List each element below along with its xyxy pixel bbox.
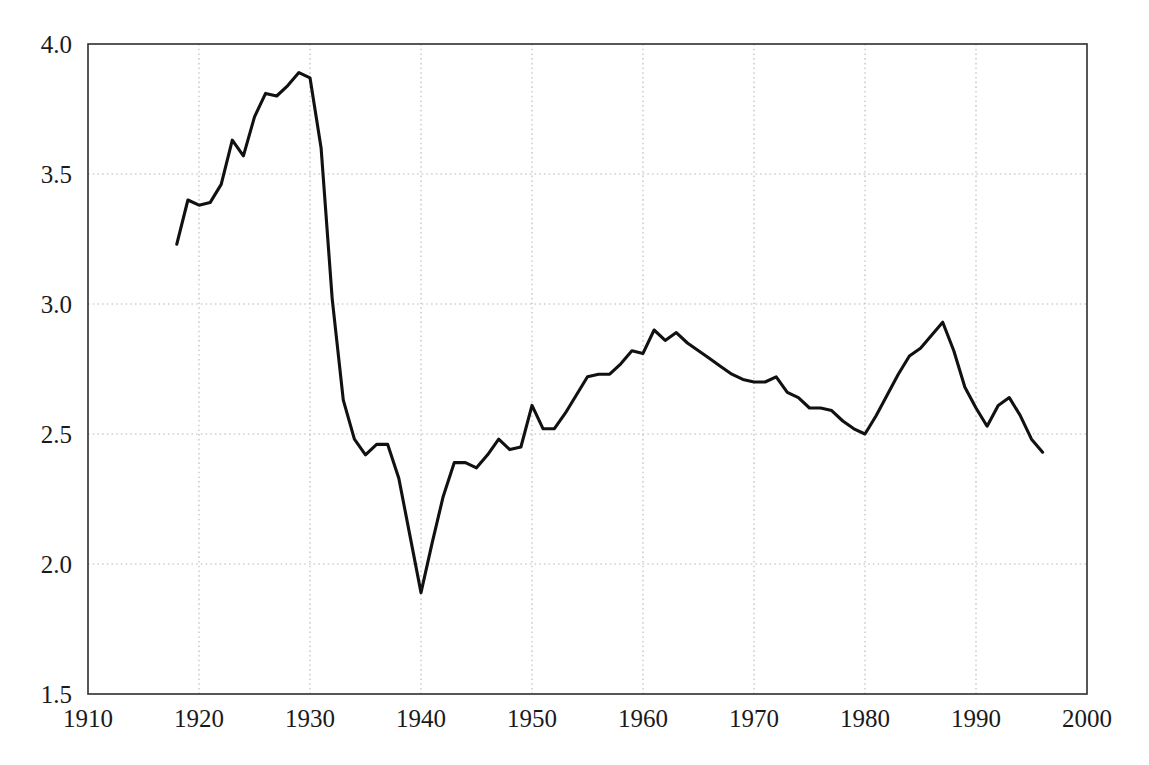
- plot-area-border: [88, 44, 1087, 694]
- x-tick-label: 2000: [1062, 705, 1112, 732]
- y-tick-label: 4.0: [41, 31, 72, 58]
- y-tick-label: 3.5: [41, 161, 72, 188]
- x-tick-label: 1930: [285, 705, 335, 732]
- vertical-gridlines: [199, 44, 976, 694]
- series-line-1: [177, 73, 1043, 593]
- plot-frame: [88, 44, 1087, 694]
- y-tick-label: 1.5: [41, 681, 72, 708]
- x-tick-label: 1980: [840, 705, 890, 732]
- x-tick-label: 1940: [396, 705, 446, 732]
- y-axis-tick-labels: 1.52.02.53.03.54.0: [41, 31, 72, 708]
- x-axis-tick-labels: 1910192019301940195019601970198019902000: [63, 705, 1112, 732]
- x-tick-label: 1920: [174, 705, 224, 732]
- chart-container: 1.52.02.53.03.54.0 191019201930194019501…: [0, 0, 1149, 765]
- y-tick-label: 2.5: [41, 421, 72, 448]
- line-chart: 1.52.02.53.03.54.0 191019201930194019501…: [0, 0, 1149, 765]
- x-tick-label: 1970: [729, 705, 779, 732]
- y-tick-label: 2.0: [41, 551, 72, 578]
- x-tick-label: 1910: [63, 705, 113, 732]
- y-tick-label: 3.0: [41, 291, 72, 318]
- x-tick-label: 1950: [507, 705, 557, 732]
- data-series-group: [177, 73, 1043, 593]
- x-tick-label: 1960: [618, 705, 668, 732]
- x-tick-label: 1990: [951, 705, 1001, 732]
- horizontal-gridlines: [88, 174, 1087, 564]
